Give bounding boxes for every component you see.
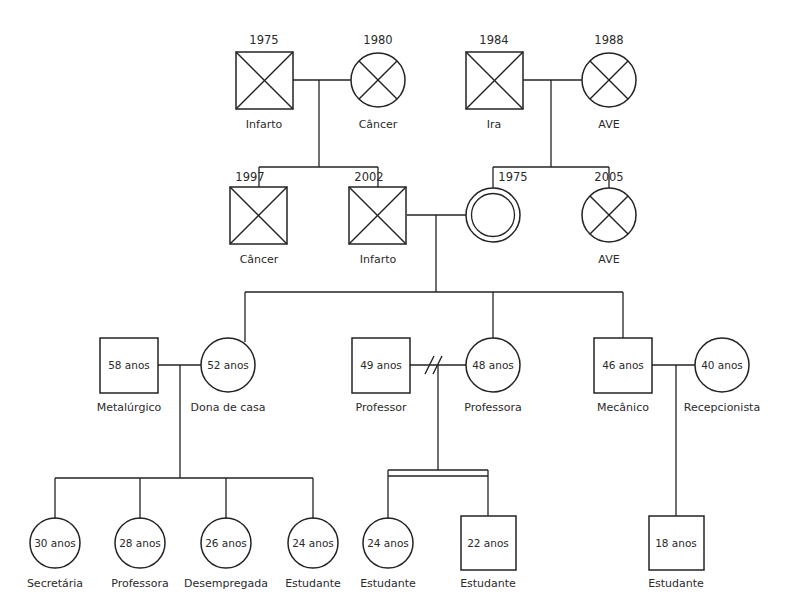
generation-1-group: 1975 Infarto 1980 Câncer 1984 Ira — [236, 33, 636, 131]
index-person-inner-circle-icon — [472, 194, 515, 237]
person-g4-p4[interactable]: 24 anos Estudante — [285, 518, 341, 590]
person-g3-p3[interactable]: 49 anos Professor — [352, 338, 410, 414]
cause-label: AVE — [598, 253, 619, 266]
death-year-label: 1997 — [235, 170, 264, 184]
person-g4-p1[interactable]: 30 anos Secretária — [27, 518, 83, 590]
cause-label: Infarto — [246, 118, 283, 131]
death-year-label: 1988 — [594, 33, 623, 47]
occupation-label: Professora — [464, 401, 522, 414]
death-year-label: 1980 — [363, 33, 392, 47]
occupation-label: Estudante — [285, 577, 341, 590]
index-person-outer-circle-icon — [466, 188, 520, 242]
connection-lines — [55, 80, 695, 519]
occupation-label: Desempregada — [184, 577, 268, 590]
occupation-label: Professora — [111, 577, 169, 590]
death-year-label: 2002 — [354, 170, 383, 184]
occupation-label: Mecânico — [597, 401, 649, 414]
age-label: 24 anos — [292, 537, 334, 549]
birth-year-label: 1975 — [498, 170, 527, 184]
cause-label: Câncer — [359, 118, 398, 131]
age-label: 26 anos — [205, 537, 247, 549]
cause-label: AVE — [598, 118, 619, 131]
person-g3-p4[interactable]: 48 anos Professora — [464, 338, 522, 414]
occupation-label: Professor — [356, 401, 407, 414]
occupation-label: Estudante — [360, 577, 416, 590]
occupation-label: Metalúrgico — [97, 401, 162, 414]
age-label: 18 anos — [655, 537, 697, 549]
person-g1-p1[interactable]: 1975 Infarto — [236, 33, 293, 131]
cause-label: Ira — [487, 118, 502, 131]
age-label: 49 anos — [360, 359, 402, 371]
generation-2-group: 1997 Câncer 2002 Infarto 1975 — [230, 170, 636, 266]
occupation-label: Estudante — [460, 577, 516, 590]
death-year-label: 1975 — [249, 33, 278, 47]
person-g3-p6[interactable]: 40 anos Recepcionista — [684, 338, 760, 414]
person-g4-p5[interactable]: 24 anos Estudante — [360, 518, 416, 590]
person-g2-p3-index[interactable]: 1975 — [466, 170, 528, 242]
age-label: 24 anos — [367, 537, 409, 549]
generation-4-group: 30 anos Secretária 28 anos Professora 26… — [27, 516, 704, 590]
person-g3-p2[interactable]: 52 anos Dona de casa — [191, 338, 266, 414]
person-g4-p6[interactable]: 22 anos Estudante — [460, 516, 516, 590]
occupation-label: Estudante — [648, 577, 704, 590]
person-g1-p3[interactable]: 1984 Ira — [466, 33, 523, 131]
cause-label: Câncer — [240, 253, 279, 266]
person-g3-p5[interactable]: 46 anos Mecânico — [594, 338, 652, 414]
generation-3-group: 58 anos Metalúrgico 52 anos Dona de casa… — [97, 338, 760, 414]
occupation-label: Dona de casa — [191, 401, 266, 414]
occupation-label: Recepcionista — [684, 401, 760, 414]
age-label: 58 anos — [108, 359, 150, 371]
person-g1-p4[interactable]: 1988 AVE — [582, 33, 636, 131]
person-g3-p1[interactable]: 58 anos Metalúrgico — [97, 338, 162, 414]
death-year-label: 2005 — [594, 170, 623, 184]
age-label: 40 anos — [701, 359, 743, 371]
cause-label: Infarto — [360, 253, 397, 266]
genogram-canvas: 1975 Infarto 1980 Câncer 1984 Ira — [0, 0, 790, 612]
genogram-page: 1975 Infarto 1980 Câncer 1984 Ira — [0, 0, 790, 612]
age-label: 52 anos — [207, 359, 249, 371]
person-g1-p2[interactable]: 1980 Câncer — [351, 33, 405, 131]
age-label: 48 anos — [472, 359, 514, 371]
person-g4-p3[interactable]: 26 anos Desempregada — [184, 518, 268, 590]
death-year-label: 1984 — [479, 33, 508, 47]
age-label: 28 anos — [119, 537, 161, 549]
age-label: 46 anos — [602, 359, 644, 371]
person-g4-p7[interactable]: 18 anos Estudante — [648, 516, 704, 590]
occupation-label: Secretária — [27, 577, 83, 590]
age-label: 30 anos — [34, 537, 76, 549]
age-label: 22 anos — [467, 537, 509, 549]
person-g4-p2[interactable]: 28 anos Professora — [111, 518, 169, 590]
